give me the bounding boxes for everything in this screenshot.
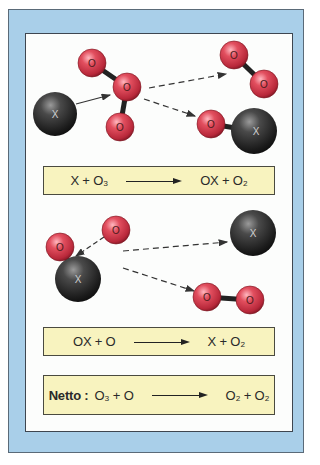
oxygen-atom: O <box>46 233 74 261</box>
svg-text:O: O <box>203 292 211 303</box>
svg-text:X: X <box>75 274 82 285</box>
oxygen-atom: O <box>113 73 141 101</box>
reaction-arrow-icon <box>126 176 182 186</box>
equation-rhs: X + O₂ <box>208 334 245 349</box>
reaction-arrow-icon <box>134 337 190 347</box>
catalyst-atom-x: X <box>33 92 77 136</box>
oxygen-atom: O <box>220 41 248 69</box>
step1-reactants: X O O O <box>33 49 141 141</box>
step2-reactants: X O O <box>46 216 130 302</box>
svg-text:O: O <box>246 295 254 306</box>
equation-step2: OX + O X + O₂ <box>43 327 275 356</box>
step1-reaction-arrows <box>144 74 226 116</box>
oxygen-atom: O <box>236 286 264 314</box>
dashed-arrow <box>123 268 194 291</box>
svg-text:O: O <box>260 79 268 90</box>
equation-lhs: OX + O <box>73 334 116 349</box>
oxygen-atom: O <box>106 113 134 141</box>
equation-lhs: O₃ + O <box>94 388 133 403</box>
equation-rhs: OX + O₂ <box>200 173 247 188</box>
svg-text:O: O <box>112 225 120 236</box>
oxygen-atom: O <box>197 110 225 138</box>
approach-arrow <box>76 95 110 104</box>
dashed-arrow <box>144 99 195 116</box>
svg-text:O: O <box>88 58 96 69</box>
svg-text:O: O <box>123 82 131 93</box>
step1-products: O O X O <box>197 41 278 154</box>
net-label: Netto : <box>49 388 89 403</box>
svg-text:O: O <box>230 50 238 61</box>
catalyst-atom-x: X <box>230 210 276 256</box>
oxygen-atom: O <box>78 49 106 77</box>
svg-text:O: O <box>207 119 215 130</box>
oxygen-atom: O <box>250 70 278 98</box>
svg-text:O: O <box>116 122 124 133</box>
oxygen-atom: O <box>102 216 130 244</box>
svg-text:X: X <box>52 109 59 120</box>
equation-rhs: O₂ + O₂ <box>226 388 270 403</box>
dashed-arrow <box>123 242 227 251</box>
svg-text:X: X <box>253 126 260 137</box>
approach-arrow <box>76 237 104 256</box>
equation-step1: X + O₃ OX + O₂ <box>43 166 275 195</box>
reaction-arrow-icon <box>152 390 208 400</box>
catalyst-atom-x: X <box>231 108 277 154</box>
oxygen-atom: O <box>193 283 221 311</box>
step2-products: X O O <box>193 210 276 314</box>
catalyst-atom-x: X <box>55 256 101 302</box>
equation-lhs: X + O₃ <box>70 173 108 188</box>
dashed-arrow <box>149 74 226 88</box>
svg-text:O: O <box>56 242 64 253</box>
equation-net: Netto : O₃ + O O₂ + O₂ <box>43 375 275 415</box>
svg-text:X: X <box>250 228 257 239</box>
